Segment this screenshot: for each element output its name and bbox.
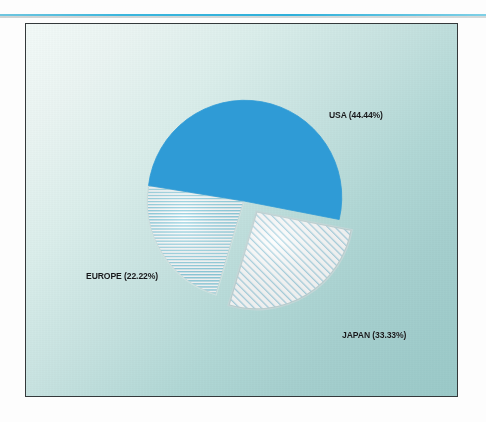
- top-rule-shadow: [0, 16, 486, 18]
- pie-chart-frame: USA (44.44%) JAPAN (33.33%) EUROPE (22.2…: [25, 23, 458, 397]
- pie-label-europe: EUROPE (22.22%): [86, 271, 158, 281]
- pie-label-usa: USA (44.44%): [329, 110, 383, 120]
- page-canvas: USA (44.44%) JAPAN (33.33%) EUROPE (22.2…: [0, 0, 486, 422]
- pie-slice-europe[interactable]: [147, 186, 244, 295]
- pie-label-japan: JAPAN (33.33%): [342, 330, 406, 340]
- pie-slice-japan[interactable]: [229, 212, 352, 310]
- pie-chart-graphic: [26, 24, 458, 397]
